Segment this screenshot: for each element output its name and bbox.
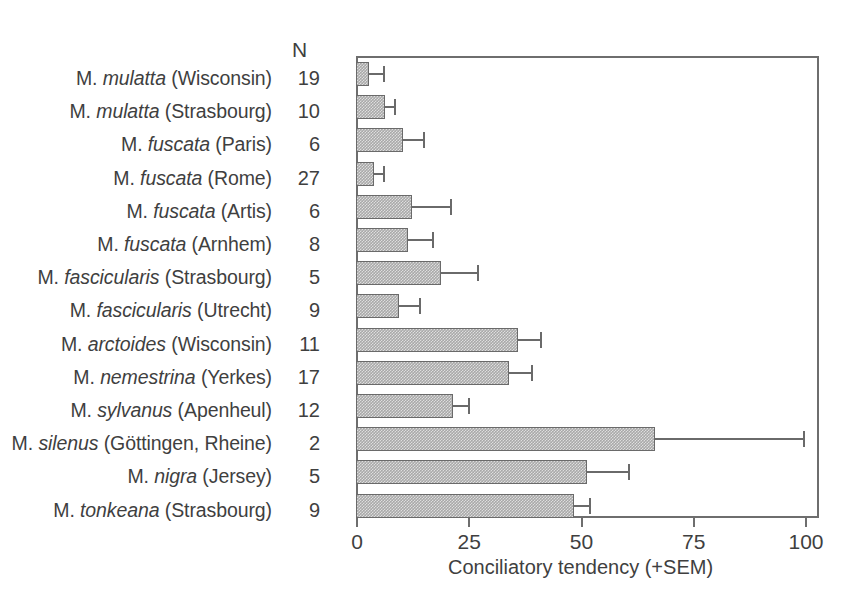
category-label-row: M. nemestrina (Yerkes)17 (0, 361, 332, 394)
genus-abbrev: M. (37, 266, 64, 288)
figure-root: N M. mulatta (Wisconsin)19M. mulatta (St… (0, 0, 865, 603)
genus-abbrev: M. (126, 200, 153, 222)
error-bar-line (509, 372, 531, 374)
bar-row (356, 290, 819, 323)
species-name: fascicularis (64, 266, 159, 288)
error-bar-line (385, 106, 394, 108)
error-bar-line (655, 438, 803, 440)
error-bar-cap (383, 166, 385, 182)
category-label: M. nemestrina (Yerkes) (73, 366, 272, 389)
site-name: (Paris) (210, 133, 272, 155)
bar-row (356, 257, 819, 290)
x-axis-tick-label: 75 (682, 530, 705, 554)
category-label: M. fuscata (Paris) (121, 133, 272, 156)
bar (356, 95, 385, 119)
bar (356, 294, 399, 318)
error-bar-line (399, 305, 419, 307)
error-bar-line (441, 272, 477, 274)
species-name: silenus (38, 432, 98, 454)
x-axis-tick (693, 518, 695, 527)
genus-abbrev: M. (76, 67, 103, 89)
genus-abbrev: M. (97, 233, 124, 255)
bar (356, 62, 369, 86)
x-axis-tick (356, 518, 358, 527)
error-bar-cap (531, 365, 533, 381)
category-label: M. mulatta (Strasbourg) (69, 100, 272, 123)
sample-size-value: 11 (280, 333, 332, 356)
site-name: (Wisconsin) (166, 333, 272, 355)
error-bar-line (369, 73, 382, 75)
sample-size-value: 17 (280, 366, 332, 389)
category-label-row: M. fascicularis (Strasbourg)5 (0, 261, 332, 294)
genus-abbrev: M. (127, 465, 154, 487)
category-label: M. sylvanus (Apenheul) (70, 399, 272, 422)
category-label: M. silenus (Göttingen, Rheine) (12, 432, 272, 455)
site-name: (Göttingen, Rheine) (98, 432, 272, 454)
x-axis-tick-label: 50 (570, 530, 593, 554)
error-bar-cap (423, 132, 425, 148)
category-label-row: M. sylvanus (Apenheul)12 (0, 394, 332, 427)
category-label: M. mulatta (Wisconsin) (76, 67, 272, 90)
bar (356, 427, 655, 451)
bar-row (356, 58, 819, 91)
error-bar-cap (628, 464, 630, 480)
x-axis-tick (581, 518, 583, 527)
error-bar-cap (394, 99, 396, 115)
bar (356, 195, 412, 219)
genus-abbrev: M. (73, 366, 100, 388)
sample-size-value: 6 (280, 200, 332, 223)
species-name: mulatta (96, 100, 159, 122)
x-axis-tick-label: 25 (458, 530, 481, 554)
error-bar-cap (803, 431, 805, 447)
category-label-column: N M. mulatta (Wisconsin)19M. mulatta (St… (0, 33, 332, 527)
genus-abbrev: M. (61, 333, 88, 355)
category-label-row: M. fuscata (Paris)6 (0, 128, 332, 161)
bar-row (356, 390, 819, 423)
sample-size-value: 2 (280, 432, 332, 455)
error-bar-line (587, 471, 627, 473)
genus-abbrev: M. (12, 432, 39, 454)
category-label: M. fuscata (Rome) (113, 167, 272, 190)
bar (356, 228, 408, 252)
bar (356, 328, 518, 352)
site-name: (Arnhem) (186, 233, 272, 255)
category-label-row: M. silenus (Göttingen, Rheine)2 (0, 427, 332, 460)
bar (356, 394, 453, 418)
category-label: M. fascicularis (Strasbourg) (37, 266, 272, 289)
bar (356, 162, 374, 186)
sample-size-value: 9 (280, 499, 332, 522)
error-bar-cap (432, 232, 434, 248)
x-axis-title: Conciliatory tendency (+SEM) (356, 556, 805, 579)
species-name: arctoides (88, 333, 166, 355)
species-name: sylvanus (97, 399, 172, 421)
genus-abbrev: M. (121, 133, 148, 155)
error-bar-line (408, 239, 433, 241)
error-bar-line (412, 206, 450, 208)
error-bar-cap (383, 66, 385, 82)
error-bar-line (403, 139, 423, 141)
bar-row (356, 91, 819, 124)
category-label-row: M. tonkeana (Strasbourg)9 (0, 493, 332, 526)
bar (356, 460, 587, 484)
error-bar-line (574, 505, 590, 507)
site-name: (Strasbourg) (160, 266, 273, 288)
bar (356, 361, 509, 385)
genus-abbrev: M. (69, 100, 96, 122)
site-name: (Wisconsin) (166, 67, 272, 89)
site-name: (Strasbourg) (160, 100, 273, 122)
species-name: fascicularis (96, 299, 191, 321)
category-label-rows: M. mulatta (Wisconsin)19M. mulatta (Stra… (0, 62, 332, 527)
error-bar-cap (419, 298, 421, 314)
category-label: M. tonkeana (Strasbourg) (53, 499, 272, 522)
category-label: M. fuscata (Arnhem) (97, 233, 272, 256)
site-name: (Rome) (202, 167, 272, 189)
site-name: (Artis) (215, 200, 272, 222)
species-name: nigra (154, 465, 197, 487)
genus-abbrev: M. (113, 167, 140, 189)
x-axis-tick (805, 518, 807, 527)
bar-row (356, 158, 819, 191)
error-bar-line (374, 173, 383, 175)
sample-size-value: 5 (280, 266, 332, 289)
site-name: (Strasbourg) (160, 499, 273, 521)
category-label-row: M. fuscata (Rome)27 (0, 162, 332, 195)
